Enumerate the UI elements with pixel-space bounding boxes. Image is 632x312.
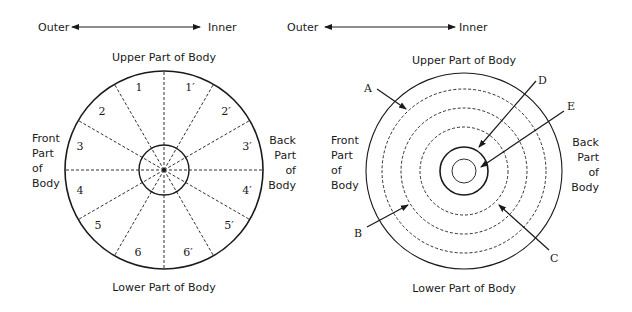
svg-text:3′: 3′ [242,140,252,153]
left-front-label: Front Part of Body [32,132,61,190]
svg-text:of: of [331,164,343,177]
svg-text:Body: Body [268,179,296,192]
right-thick-inner-circle [440,147,488,195]
svg-text:1′: 1′ [185,81,195,94]
svg-text:of: of [285,164,297,177]
svg-text:Body: Body [331,179,359,192]
right-core-circle [452,159,476,183]
svg-text:Front: Front [331,134,360,147]
right-dashed-rings [382,89,546,253]
left-diagram: Outer Inner Upper Part of Body Lower Par… [32,21,297,294]
svg-text:Body: Body [32,177,60,190]
pointer-d-label: D [538,74,547,87]
pointer-e-label: E [567,100,575,113]
body-region-diagrams: Outer Inner Upper Part of Body Lower Par… [0,0,632,312]
svg-text:Part: Part [32,147,54,160]
svg-text:Front: Front [32,132,61,145]
svg-text:5: 5 [95,219,102,232]
left-axis-inner-label: Inner [208,21,237,34]
right-pointer-arrows [367,81,564,250]
right-front-label: Front Part of Body [331,134,360,192]
left-back-label: Back Part of Body [268,134,297,192]
pointer-c-label: C [550,252,558,265]
pointer-a-label: A [363,82,373,95]
pointer-a-arrow [377,89,406,109]
right-diagram: Outer Inner Upper Part of Body Lower Par… [287,21,600,295]
svg-text:4: 4 [77,184,84,197]
right-axis-inner-label: Inner [459,21,488,34]
svg-text:2′: 2′ [221,105,231,118]
svg-text:3: 3 [77,140,84,153]
svg-text:Part: Part [331,149,353,162]
right-back-label: Back Part of Body [571,136,600,194]
svg-text:of: of [32,162,44,175]
svg-text:Back: Back [572,136,599,149]
svg-text:2: 2 [99,105,106,118]
svg-text:Part: Part [577,151,599,164]
svg-text:5′: 5′ [224,219,234,232]
svg-text:1: 1 [136,81,143,94]
pointer-e-arrow [481,111,564,167]
right-upper-label: Upper Part of Body [412,54,516,67]
svg-text:Part: Part [274,149,296,162]
right-axis-outer-label: Outer [287,21,319,34]
left-axis-outer-label: Outer [38,21,70,34]
pointer-d-arrow [479,81,536,147]
left-center-dot [162,168,166,172]
left-lower-label: Lower Part of Body [112,281,216,294]
svg-text:Back: Back [269,134,296,147]
svg-text:of: of [588,166,600,179]
svg-text:6′: 6′ [183,246,193,259]
right-lower-label: Lower Part of Body [412,282,516,295]
svg-text:4′: 4′ [242,184,252,197]
left-upper-label: Upper Part of Body [112,51,216,64]
svg-text:6: 6 [135,246,142,259]
svg-text:Body: Body [571,181,599,194]
pointer-b-label: B [354,227,362,240]
pointer-c-arrow [499,205,549,250]
